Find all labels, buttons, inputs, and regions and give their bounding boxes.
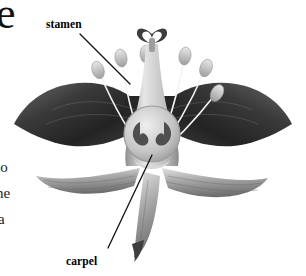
margin-line-ne: ne: [0, 186, 10, 201]
figure-page: e to ne a stamen carpel: [0, 0, 306, 276]
dropcap-e: e: [0, 0, 16, 34]
margin-line-a: a: [0, 212, 5, 227]
label-carpel: carpel: [66, 255, 97, 267]
label-stamen: stamen: [46, 18, 82, 30]
style-neck: [149, 38, 155, 52]
flower-illustration: [0, 0, 306, 276]
margin-line-to: to: [0, 160, 8, 175]
